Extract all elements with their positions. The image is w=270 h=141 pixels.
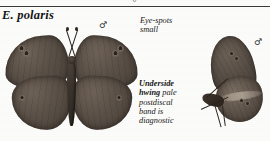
ocellus-spot	[20, 96, 24, 100]
annotation-underside-lead2: hwing	[139, 88, 160, 97]
annotation-eyespots-line2: small	[140, 25, 158, 34]
specimen-dorsal	[4, 34, 140, 140]
ocellus-spot	[117, 96, 121, 100]
annotation-underside: Underside hwing pale postdiscal band is …	[139, 79, 187, 125]
antenna-club-left	[66, 27, 69, 31]
ocellus-spot	[113, 51, 118, 56]
wing-veins-icon	[71, 75, 133, 131]
annotation-eyespots: Eye-spots small	[140, 16, 186, 35]
hindwing-right	[71, 75, 133, 131]
sex-symbol-dorsal: ♂	[99, 21, 107, 30]
ocellus-spot	[230, 52, 233, 55]
ocellus-spot	[246, 102, 249, 105]
ocellus-spot	[235, 57, 238, 60]
annotation-underside-lead: Underside	[139, 79, 174, 88]
sex-symbol-ventral: ♂	[254, 38, 262, 47]
ocellus-spot	[118, 46, 123, 51]
ocellus-spot	[19, 46, 24, 51]
butterfly-body	[67, 60, 76, 126]
antenna-club-right	[75, 27, 78, 31]
wing-veins-icon	[11, 75, 73, 131]
species-name: E. polaris	[2, 8, 54, 23]
ocellus-spot	[240, 99, 243, 102]
header-divider	[0, 6, 270, 7]
specimen-ventral	[196, 36, 264, 140]
field-guide-plate: ♂ E. polaris ♂	[0, 0, 270, 141]
hindwing-left	[11, 75, 73, 131]
annotation-eyespots-line1: Eye-spots	[140, 16, 172, 25]
ocellus-spot	[24, 51, 29, 56]
top-male-symbol: ♂	[131, 0, 139, 5]
